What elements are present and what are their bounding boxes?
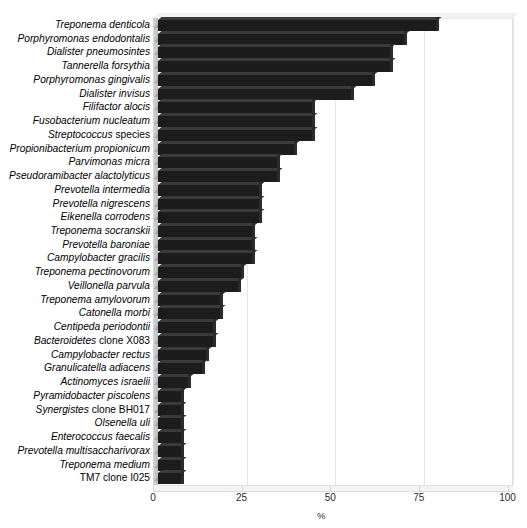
- category-label: Actinomyces israelii: [0, 375, 150, 388]
- bar-right-face: [238, 278, 241, 292]
- bar-right-face: [277, 168, 280, 182]
- bar: [158, 446, 183, 457]
- category-label: Prevotella intermedia: [0, 183, 150, 196]
- bar: [158, 391, 183, 402]
- category-label: Olsenella uli: [0, 416, 150, 429]
- bar-right-face: [241, 264, 244, 278]
- bar-body: [158, 102, 314, 113]
- bar: [158, 116, 314, 127]
- category-label: Treponema amylovorum: [0, 293, 150, 306]
- bar-body: [158, 130, 314, 141]
- x-tick-label-100: 100: [488, 492, 527, 503]
- category-label: TM7 clone I025: [0, 471, 150, 484]
- bar-body: [158, 281, 240, 292]
- bar-body: [158, 185, 261, 196]
- bar-chart: Treponema denticolaPorphyromonas endodon…: [0, 0, 527, 528]
- bar-body: [158, 377, 190, 388]
- bar-body: [158, 20, 438, 31]
- x-tick-label-0: 0: [133, 492, 173, 503]
- bar-body: [158, 308, 222, 319]
- category-label: Treponema medium: [0, 458, 150, 471]
- bar-right-face: [312, 113, 315, 127]
- bar-right-face: [181, 443, 184, 457]
- category-label: Campylobacter gracilis: [0, 251, 150, 264]
- bar-body: [158, 267, 243, 278]
- category-label: Prevotella nigrescens: [0, 197, 150, 210]
- bar-right-face: [181, 457, 184, 471]
- bar-right-face: [181, 402, 184, 416]
- bar: [158, 418, 183, 429]
- bar-body: [158, 363, 204, 374]
- bar-body: [158, 253, 254, 264]
- bar: [158, 212, 261, 223]
- category-label: Treponema pectinovorum: [0, 265, 150, 278]
- category-label: Pyramidobacter piscolens: [0, 389, 150, 402]
- bar-body: [158, 391, 183, 402]
- bar-right-face: [213, 333, 216, 347]
- bar-body: [158, 61, 392, 72]
- bar-right-face: [252, 237, 255, 251]
- bar-body: [158, 116, 314, 127]
- bar-right-face: [181, 388, 184, 402]
- bar-right-face: [206, 347, 209, 361]
- bar-body: [158, 350, 208, 361]
- category-label: Porphyromonas gingivalis: [0, 73, 150, 86]
- bar: [158, 473, 183, 484]
- category-label: Dialister invisus: [0, 87, 150, 100]
- x-axis-title: %: [317, 510, 325, 521]
- bar-right-face: [252, 250, 255, 264]
- bar-right-face: [252, 223, 255, 237]
- bar: [158, 267, 243, 278]
- category-label: Centipeda periodontii: [0, 320, 150, 333]
- category-label: Eikenella corrodens: [0, 210, 150, 223]
- bar-right-face: [404, 31, 407, 45]
- bar: [158, 281, 240, 292]
- category-label: Treponema socranskii: [0, 224, 150, 237]
- bar-right-face: [312, 99, 315, 113]
- bar: [158, 350, 208, 361]
- bar-right-face: [259, 182, 262, 196]
- bar: [158, 185, 261, 196]
- bar: [158, 432, 183, 443]
- bar-right-face: [390, 58, 393, 72]
- bar: [158, 253, 254, 264]
- bar-body: [158, 432, 183, 443]
- bar-right-face: [277, 154, 280, 168]
- category-label: Granulicatella adiacens: [0, 361, 150, 374]
- bar: [158, 199, 261, 210]
- category-label: Porphyromonas endodontalis: [0, 32, 150, 45]
- category-label: Filifactor alocis: [0, 100, 150, 113]
- bar: [158, 322, 215, 333]
- bar-right-face: [390, 44, 393, 58]
- bar: [158, 20, 438, 31]
- bar-body: [158, 75, 374, 86]
- bar: [158, 130, 314, 141]
- bar-right-face: [220, 292, 223, 306]
- category-label: Catonella morbi: [0, 306, 150, 319]
- bar-body: [158, 47, 392, 58]
- bar-body: [158, 199, 261, 210]
- bar: [158, 61, 392, 72]
- category-label: Pseudoramibacter alactolyticus: [0, 169, 150, 182]
- category-label: Prevotella multisaccharivorax: [0, 444, 150, 457]
- bar-right-face: [188, 374, 191, 388]
- bar-right-face: [436, 17, 439, 31]
- bar: [158, 171, 279, 182]
- category-label: Enterococcus faecalis: [0, 430, 150, 443]
- bar-body: [158, 460, 183, 471]
- bar-row: TM7 clone I025: [0, 471, 527, 487]
- bar: [158, 308, 222, 319]
- category-label: Dialister pneumosintes: [0, 45, 150, 58]
- x-tick-label-50: 50: [310, 492, 350, 503]
- bar: [158, 47, 392, 58]
- category-label: Campylobacter rectus: [0, 348, 150, 361]
- bar-right-face: [220, 305, 223, 319]
- category-label: Treponema denticola: [0, 18, 150, 31]
- bar: [158, 460, 183, 471]
- category-label: Fusobacterium nucleatum: [0, 114, 150, 127]
- bar-right-face: [312, 127, 315, 141]
- bar-right-face: [181, 429, 184, 443]
- category-label: Bacteroidetes clone X083: [0, 334, 150, 347]
- bar: [158, 144, 296, 155]
- bar-body: [158, 144, 296, 155]
